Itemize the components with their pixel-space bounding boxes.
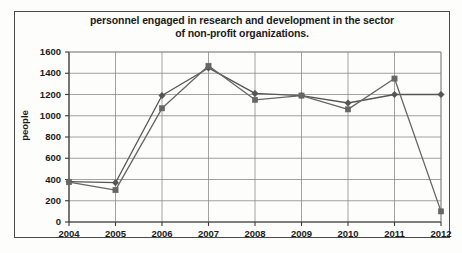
y-tick-label: 0 xyxy=(23,216,61,227)
chart-figure: personnel engaged in research and develo… xyxy=(0,0,462,253)
x-tick-label: 2007 xyxy=(187,228,231,239)
y-tick-label: 1200 xyxy=(23,89,61,100)
x-tick-label: 2005 xyxy=(94,228,138,239)
x-tick-label: 2011 xyxy=(373,228,417,239)
y-tick-label: 1000 xyxy=(23,110,61,121)
x-tick-label: 2006 xyxy=(140,228,184,239)
y-tick-label: 1400 xyxy=(23,67,61,78)
y-tick-label: 200 xyxy=(23,195,61,206)
x-tick-label: 2004 xyxy=(47,228,91,239)
plot-area xyxy=(0,0,462,253)
axis-ticks xyxy=(65,52,441,226)
x-tick-label: 2009 xyxy=(280,228,324,239)
y-tick-label: 800 xyxy=(23,131,61,142)
y-tick-label: 1600 xyxy=(23,46,61,57)
y-tick-label: 600 xyxy=(23,152,61,163)
y-tick-label: 400 xyxy=(23,174,61,185)
x-tick-label: 2008 xyxy=(233,228,277,239)
x-tick-label: 2012 xyxy=(419,228,462,239)
x-tick-label: 2010 xyxy=(326,228,370,239)
